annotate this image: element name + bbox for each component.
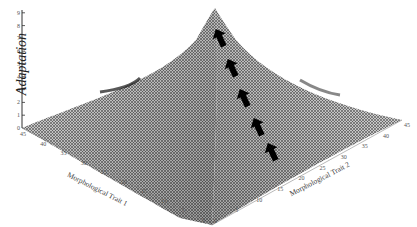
y-tick-label: 20 bbox=[298, 175, 304, 181]
x-tick-label: 45 bbox=[20, 131, 26, 137]
y-tick-label: 0 bbox=[214, 218, 217, 224]
x-tick-label: 35 bbox=[60, 150, 66, 156]
z-tick-label: 9 bbox=[17, 10, 20, 16]
y-tick-label: 40 bbox=[383, 133, 389, 139]
x-tick-label: 25 bbox=[101, 169, 107, 175]
x-tick-label: 5 bbox=[182, 207, 185, 213]
surface-plot: 0123456789 bbox=[0, 0, 417, 227]
y-tick-label: 30 bbox=[341, 154, 347, 160]
y-tick-label: 25 bbox=[320, 165, 326, 171]
z-axis-label: Adaptation bbox=[14, 24, 30, 104]
x-tick-label: 0 bbox=[202, 217, 205, 223]
y-tick-label: 15 bbox=[277, 186, 283, 192]
x-tick-label: 10 bbox=[162, 198, 168, 204]
x-tick-label: 30 bbox=[81, 160, 87, 166]
x-tick-label: 20 bbox=[121, 179, 127, 185]
y-tick-label: 35 bbox=[362, 143, 368, 149]
x-tick-label: 40 bbox=[40, 141, 46, 147]
z-tick-label: 1 bbox=[17, 112, 20, 118]
y-tick-label: 45 bbox=[404, 122, 410, 128]
x-tick-label: 15 bbox=[141, 188, 147, 194]
y-tick-label: 10 bbox=[256, 197, 262, 203]
y-tick-label: 5 bbox=[235, 207, 238, 213]
